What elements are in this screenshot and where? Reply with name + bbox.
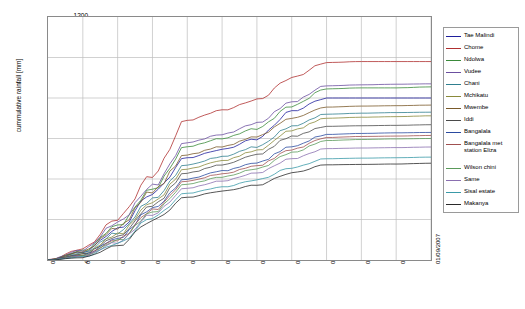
legend-item-label: Wilson chini <box>464 162 496 171</box>
legend-item[interactable]: Chani <box>446 78 516 90</box>
legend-item-label: Bangalala met station Eliza <box>464 138 516 154</box>
legend-item[interactable]: Wilson chini <box>446 162 516 174</box>
legend-item-label: Mchikatu <box>464 90 488 99</box>
legend-item[interactable]: Vudee <box>446 66 516 78</box>
plot-area <box>47 16 432 261</box>
legend-item[interactable]: Same <box>446 174 516 186</box>
rainfall-chart: cummulative rainfall [mm] 02004006008001… <box>0 0 525 309</box>
legend-line-icon <box>446 132 461 133</box>
legend-swatch <box>446 162 464 174</box>
legend-item[interactable]: Bangalala <box>446 126 516 138</box>
legend: Tae MalindiChomeNdolwaVudeeChaniMchikatu… <box>443 27 519 213</box>
legend-line-icon <box>446 204 461 205</box>
legend-swatch <box>446 186 464 198</box>
x-tick-label: 01/09/2007 <box>435 234 442 264</box>
legend-swatch <box>446 42 464 54</box>
legend-item[interactable]: Makanya <box>446 198 516 210</box>
legend-swatch <box>446 54 464 66</box>
legend-item-label: Iddi <box>464 114 474 123</box>
legend-item[interactable]: Tae Malindi <box>446 30 516 42</box>
legend-item[interactable]: Mwembe <box>446 102 516 114</box>
legend-item-label: Same <box>464 174 480 183</box>
legend-item[interactable]: Sisal estate <box>446 186 516 198</box>
legend-item[interactable]: Bangalala met station Eliza <box>446 138 516 162</box>
legend-item-label: Ndolwa <box>464 54 484 63</box>
legend-item[interactable]: Iddi <box>446 114 516 126</box>
legend-line-icon <box>446 180 461 181</box>
legend-line-icon <box>446 72 461 73</box>
legend-item-label: Bangalala <box>464 126 491 135</box>
legend-line-icon <box>446 60 461 61</box>
legend-item[interactable]: Ndolwa <box>446 54 516 66</box>
legend-line-icon <box>446 192 461 193</box>
legend-line-icon <box>446 96 461 97</box>
legend-swatch <box>446 102 464 114</box>
legend-swatch <box>446 198 464 210</box>
legend-item-label: Makanya <box>464 198 488 207</box>
legend-line-icon <box>446 48 461 49</box>
legend-item-label: Chani <box>464 78 480 87</box>
series-lines <box>48 17 431 260</box>
y-axis-title: cummulative rainfall [mm] <box>15 16 22 176</box>
legend-line-icon <box>446 108 461 109</box>
legend-swatch <box>446 114 464 126</box>
legend-item-label: Sisal estate <box>464 186 495 195</box>
legend-line-icon <box>446 144 461 145</box>
legend-item-label: Chome <box>464 42 483 51</box>
legend-swatch <box>446 78 464 90</box>
legend-swatch <box>446 90 464 102</box>
legend-item-label: Vudee <box>464 66 481 75</box>
legend-swatch <box>446 66 464 78</box>
legend-line-icon <box>446 120 461 121</box>
legend-swatch <box>446 138 464 150</box>
legend-line-icon <box>446 84 461 85</box>
legend-line-icon <box>446 168 461 169</box>
legend-swatch <box>446 126 464 138</box>
legend-swatch <box>446 30 464 42</box>
legend-item-label: Mwembe <box>464 102 488 111</box>
legend-item[interactable]: Chome <box>446 42 516 54</box>
legend-item-label: Tae Malindi <box>464 30 494 39</box>
legend-swatch <box>446 174 464 186</box>
legend-item[interactable]: Mchikatu <box>446 90 516 102</box>
legend-line-icon <box>446 36 461 37</box>
